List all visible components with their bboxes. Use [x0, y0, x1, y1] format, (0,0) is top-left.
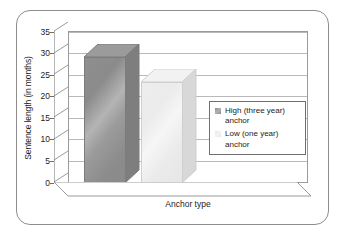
y-axis-3d-wall	[54, 22, 69, 183]
x-axis-title: Anchor type	[68, 199, 308, 209]
legend-item-low-anchor: Low (one year) anchor	[215, 129, 301, 149]
legend-label: High (three year) anchor	[225, 106, 285, 126]
y-tick-label: 10	[32, 135, 50, 144]
y-tick-label: 35	[32, 28, 50, 37]
chart-legend: High (three year) anchor Low (one year) …	[209, 101, 306, 155]
y-tick-label: 15	[32, 114, 50, 123]
legend-label-line1: High (three year)	[225, 106, 285, 115]
legend-swatch-icon	[215, 131, 221, 137]
y-tick-label: 20	[32, 92, 50, 101]
chart-floor-3d	[54, 182, 312, 198]
legend-label-line2: anchor	[225, 140, 278, 150]
y-tick-label: 30	[32, 49, 50, 58]
chart-screenshot: Sentence length (in months) 35 30 25 20 …	[0, 0, 345, 240]
y-tick-label: 25	[32, 71, 50, 80]
y-axis-tick-labels: 35 30 25 20 15 10 5 0	[28, 0, 50, 240]
bar-front-face	[84, 57, 126, 183]
bar-high-three-year-anchor	[84, 44, 140, 183]
legend-item-high-anchor: High (three year) anchor	[215, 106, 301, 126]
bar-low-one-year-anchor	[141, 69, 197, 183]
bar-front-face	[141, 82, 183, 183]
y-tick-label: 0	[32, 179, 50, 188]
legend-label-line1: Low (one year)	[225, 129, 278, 138]
y-tick-label: 5	[32, 157, 50, 166]
legend-label-line2: anchor	[225, 116, 285, 126]
legend-label: Low (one year) anchor	[225, 129, 278, 149]
bar-chart: Sentence length (in months) 35 30 25 20 …	[0, 0, 345, 240]
legend-swatch-icon	[215, 108, 221, 114]
gridline	[69, 32, 307, 33]
